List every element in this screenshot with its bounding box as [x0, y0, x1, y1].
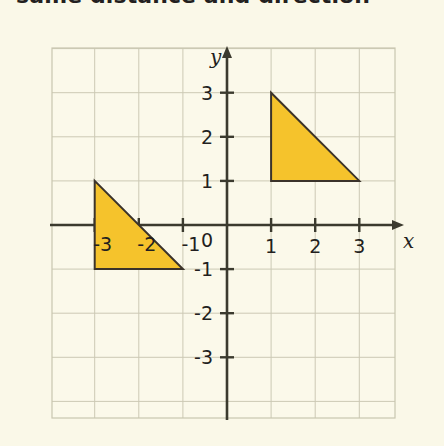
x-tick-label--2: -2 — [137, 233, 156, 255]
x-tick-label-0: 0 — [201, 229, 213, 251]
y-tick-label-3: 3 — [201, 82, 213, 104]
x-tick-label--1: -1 — [181, 233, 200, 255]
coordinate-plane-svg: -3-2-10123-3-2-1123 y x — [0, 0, 444, 446]
x-axis-label: x — [403, 229, 414, 253]
coordinate-plane-figure: -3-2-10123-3-2-1123 y x — [0, 0, 444, 446]
x-tick-label-1: 1 — [265, 235, 277, 257]
y-axis-label: y — [209, 45, 222, 69]
y-tick-label--3: -3 — [194, 346, 213, 368]
x-tick-label-2: 2 — [309, 235, 321, 257]
y-tick-label--1: -1 — [194, 258, 213, 280]
x-tick-label--3: -3 — [93, 233, 112, 255]
y-tick-label-1: 1 — [201, 170, 213, 192]
y-tick-label-2: 2 — [201, 126, 213, 148]
y-tick-label--2: -2 — [194, 302, 213, 324]
x-tick-label-3: 3 — [353, 235, 365, 257]
